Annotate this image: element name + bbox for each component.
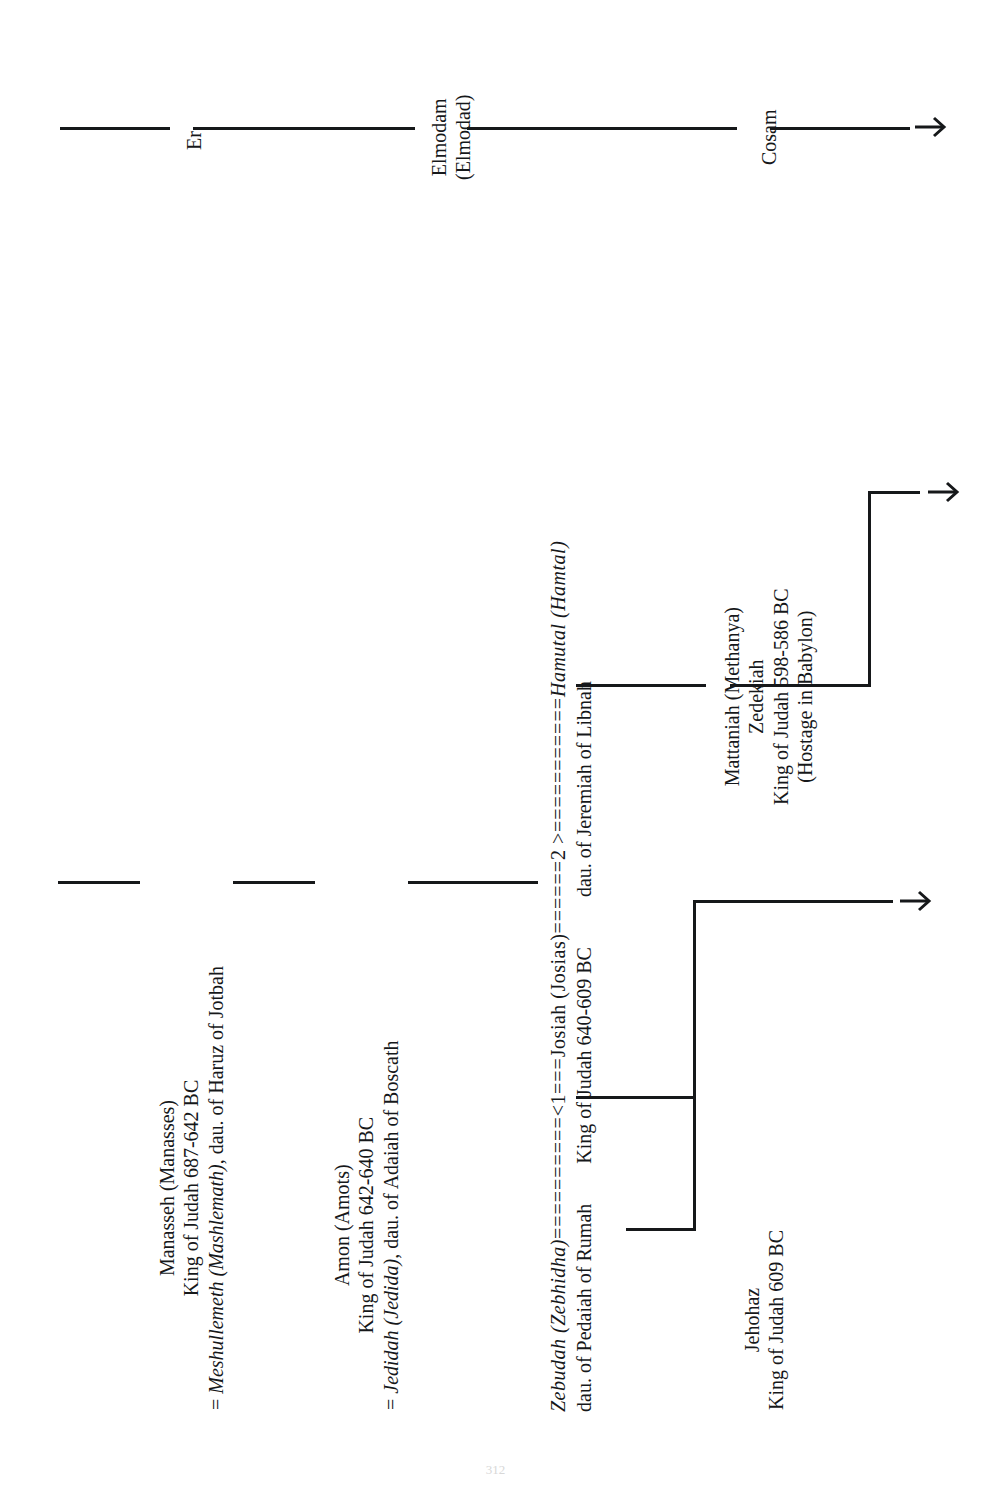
zedekiah-birth-name: Mattaniah (Methanya) xyxy=(720,588,744,805)
marriage-rule-1b: === xyxy=(547,1057,569,1094)
descent-connector-to-josiah xyxy=(408,881,538,884)
marriage-rule-2a: ====== xyxy=(547,860,569,934)
marriage-rule-2: =========== xyxy=(547,697,569,832)
wife1-descriptor: dau. of Pedaiah of Rumah xyxy=(573,1204,595,1412)
amon-spouse-rest: , dau. of Adaiah of Boscath xyxy=(380,1040,402,1258)
jehohaz-name: Jehohaz xyxy=(740,1230,764,1410)
wife2-name: Hamutal (Hamtal) xyxy=(547,541,569,697)
amon-name: Amon (Amots) xyxy=(330,1040,354,1410)
marriage-order-marker-2: 2 > xyxy=(547,832,569,860)
josiah-marriage-row-line2: dau. of Pedaiah of Rumah King of Judah 6… xyxy=(572,681,596,1412)
person-manasseh: Manasseh (Manasses) King of Judah 687-64… xyxy=(155,966,228,1410)
ancestor-node-cosam: Cosam xyxy=(757,109,781,165)
jehohaz-reign: King of Judah 609 BC xyxy=(764,1230,788,1410)
ancestor-node-er-label: Er xyxy=(182,131,206,150)
issue1-continuation-branch xyxy=(693,900,893,903)
issue2-connector xyxy=(730,684,870,687)
issue2-stub xyxy=(576,684,706,687)
ancestor-line-segment-2 xyxy=(193,127,415,130)
manasseh-spouse-prefix: = xyxy=(205,1394,227,1410)
issue1-continuation-arrow-icon xyxy=(900,888,934,914)
zedekiah-reign: King of Judah 598-586 BC xyxy=(769,588,793,805)
amon-reign: King of Judah 642-640 BC xyxy=(354,1040,378,1410)
spacer-2 xyxy=(573,897,595,947)
genealogy-chart-page: Er Elmodam (Elmodad) Cosam Manasseh (Man… xyxy=(0,0,991,1489)
josiah-name: Josiah (Josias) xyxy=(547,934,569,1058)
manasseh-reign: King of Judah 687-642 BC xyxy=(179,966,203,1410)
ancestor-node-elmodam: Elmodam (Elmodad) xyxy=(427,94,476,180)
jehohaz-connector xyxy=(626,1228,696,1231)
person-jehohaz: Jehohaz King of Judah 609 BC xyxy=(740,1230,789,1410)
issue1-stub xyxy=(576,1096,694,1099)
wife1-name: Zebudah (Zebhidha) xyxy=(547,1239,569,1412)
issue1-spine xyxy=(693,900,696,1230)
ancestor-line-continuation-arrow-icon xyxy=(915,114,949,140)
issue2-continuation-branch xyxy=(868,491,920,494)
ancestor-node-elmodam-alt: (Elmodad) xyxy=(451,94,475,180)
manasseh-spouse-rest: , dau. of Haruz of Jotbah xyxy=(205,966,227,1164)
zedekiah-note: (Hostage in Babylon) xyxy=(793,588,817,805)
marriage-order-marker-1: <1 xyxy=(547,1094,569,1116)
amon-spouse: = Jedidah (Jedida), dau. of Adaiah of Bo… xyxy=(379,1040,403,1410)
josiah-reign: King of Judah 640-609 BC xyxy=(573,947,595,1164)
manasseh-spouse: = Meshullemeth (Mashlemath), dau. of Har… xyxy=(204,966,228,1410)
ancestor-line-segment-4 xyxy=(770,127,910,130)
ancestor-line-segment-3 xyxy=(467,127,737,130)
ancestor-line-segment-1 xyxy=(60,127,170,130)
page-number: 312 xyxy=(0,1462,991,1478)
spacer-1 xyxy=(573,1164,595,1204)
wife2-descriptor: dau. of Jeremiah of Libnah xyxy=(573,681,595,897)
issue2-continuation-arrow-icon xyxy=(928,479,962,505)
person-zedekiah: Mattaniah (Methanya) Zedekiah King of Ju… xyxy=(720,588,818,805)
ancestor-node-cosam-label: Cosam xyxy=(757,109,781,165)
manasseh-name: Manasseh (Manasses) xyxy=(155,966,179,1410)
descent-connector-to-amon xyxy=(233,881,315,884)
amon-spouse-prefix: = xyxy=(380,1394,402,1410)
amon-spouse-name: Jedidah (Jedida) xyxy=(380,1259,402,1394)
marriage-rule-1: ========== xyxy=(547,1116,569,1239)
manasseh-spouse-name: Meshullemeth (Mashlemath) xyxy=(205,1164,227,1393)
issue2-riser xyxy=(868,491,871,687)
person-amon: Amon (Amots) King of Judah 642-640 BC = … xyxy=(330,1040,403,1410)
zedekiah-throne-name: Zedekiah xyxy=(744,588,768,805)
ancestor-node-er: Er xyxy=(182,131,206,150)
ancestor-node-elmodam-label: Elmodam xyxy=(427,94,451,180)
descent-connector-to-manasseh xyxy=(58,881,140,884)
josiah-marriage-row-line1: Zebudah (Zebhidha)==========<1===Josiah … xyxy=(546,541,570,1412)
